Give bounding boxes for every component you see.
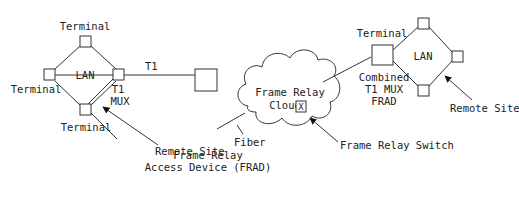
lan-link [55, 46, 80, 69]
t1-link-label: T1 [145, 60, 158, 72]
terminal-right-label: Terminal [357, 27, 408, 39]
fiber-link [217, 113, 245, 129]
lan-link [91, 46, 116, 69]
t1-mux-node[interactable] [113, 69, 124, 80]
frad-label-line2: Access Device (FRAD) [145, 161, 271, 173]
cloud-label-line1: Frame Relay [255, 86, 325, 98]
switch-arrow-icon [310, 118, 338, 142]
mux-label-line1: T1 [112, 83, 125, 95]
terminal-bottom-label: Terminal [61, 121, 112, 133]
fiber-tick [237, 125, 243, 134]
fiber-label: Fiber [234, 136, 266, 148]
lan-label: LAN [76, 69, 95, 81]
combined-label-line3: FRAD [371, 95, 396, 107]
right-remote-site: Terminal LAN Combined T1 MUX FRAD Remote… [357, 18, 519, 114]
terminal-top-label: Terminal [60, 20, 111, 32]
terminal-left-node[interactable] [44, 69, 55, 80]
combined-label-line2: T1 MUX [365, 83, 404, 95]
frad-node[interactable] [195, 69, 217, 91]
left-remote-site: Terminal Terminal Terminal LAN T1 MUX Re… [11, 20, 225, 157]
lan-link [429, 61, 452, 86]
remote-site-label-right: Remote Site [450, 102, 519, 114]
frame-relay-network-diagram: Terminal Terminal Terminal LAN T1 MUX Re… [0, 0, 519, 221]
lan-link [429, 27, 452, 52]
mux-label-line2: MUX [111, 95, 131, 107]
combined-t1-mux-frad-node[interactable] [372, 45, 393, 65]
right-lan-label: LAN [414, 50, 433, 62]
remote-site-arrow-icon [445, 76, 472, 100]
terminal-bottom-node[interactable] [80, 104, 91, 115]
frad [195, 69, 217, 91]
switch-x-icon: X [298, 102, 304, 112]
terminal-top-node[interactable] [80, 36, 91, 47]
terminal-right-right-node[interactable] [452, 51, 463, 62]
terminal-right-top-node[interactable] [418, 18, 429, 29]
terminal-left-label: Terminal [11, 83, 62, 95]
switch-label: Frame Relay Switch [340, 139, 454, 151]
combined-label-line1: Combined [359, 71, 410, 83]
terminal-right-bottom-node[interactable] [418, 85, 429, 96]
frad-label-line1: Frame Relay [173, 149, 243, 161]
